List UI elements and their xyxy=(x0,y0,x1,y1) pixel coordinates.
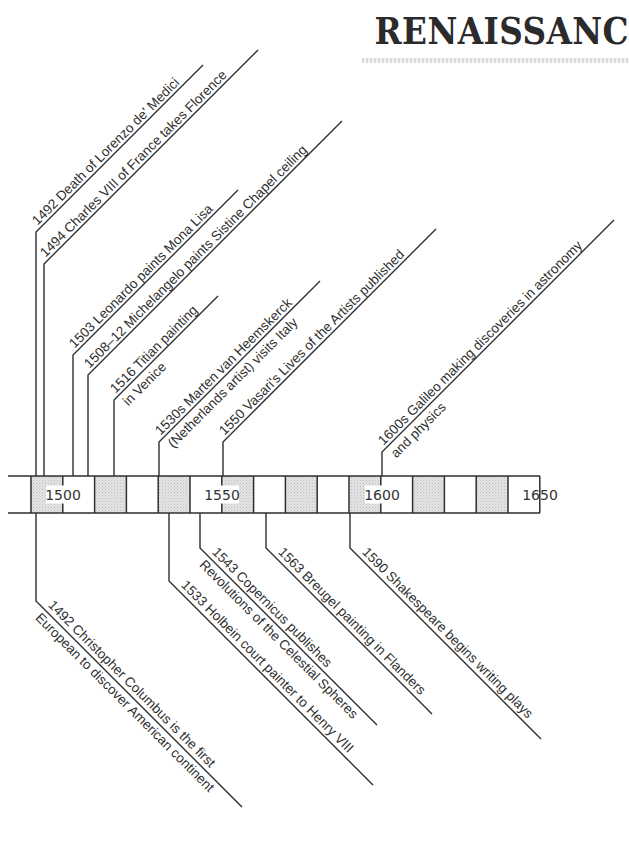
event-label: 1530s Marten van Heemskerck xyxy=(152,295,295,438)
event-callout-above: 1600s Galileo making discoveries in astr… xyxy=(375,220,614,476)
events-below: 1492 Christopher Columbus is the firstEu… xyxy=(33,513,541,807)
event-label: 1590 Shakespeare begins writing plays xyxy=(359,544,536,721)
event-callout-below: 1492 Christopher Columbus is the firstEu… xyxy=(33,513,242,807)
shaded-cell xyxy=(476,476,508,513)
event-label: 1563 Breugel painting in Flanders xyxy=(275,544,429,698)
event-label: 1600s Galileo making discoveries in astr… xyxy=(375,238,585,448)
shaded-cell xyxy=(413,476,445,513)
shaded-cell xyxy=(158,476,190,513)
event-label: 1543 Copernicus publishes xyxy=(209,544,335,670)
year-label: 1550 xyxy=(204,487,240,503)
event-label: European to discover American continent xyxy=(33,610,218,795)
event-label: 1494 Charles VIII of France takes Floren… xyxy=(37,67,230,260)
event-callout-above: 1530s Marten van Heemskerck(Netherlands … xyxy=(152,281,320,476)
event-label: 1492 Christopher Columbus is the first xyxy=(45,597,218,770)
timeline-diagram: 1500155016001650 1492 Death of Lorenzo d… xyxy=(0,0,629,851)
year-label: 1500 xyxy=(45,487,81,503)
event-label: 1503 Leonardo paints Mona Lisa xyxy=(66,201,216,351)
event-label: Revolutions of the Celestial Spheres xyxy=(197,557,362,722)
event-label: 1492 Death of Lorenzo de' Medici xyxy=(29,75,182,228)
event-callout-below: 1590 Shakespeare begins writing plays xyxy=(350,513,541,739)
shaded-cell xyxy=(95,476,127,513)
timeline-bar: 1500155016001650 xyxy=(8,476,558,513)
year-label: 1650 xyxy=(522,487,558,503)
shaded-cell xyxy=(285,476,317,513)
events-above: 1492 Death of Lorenzo de' Medici1494 Cha… xyxy=(29,50,614,476)
year-label: 1600 xyxy=(364,487,400,503)
